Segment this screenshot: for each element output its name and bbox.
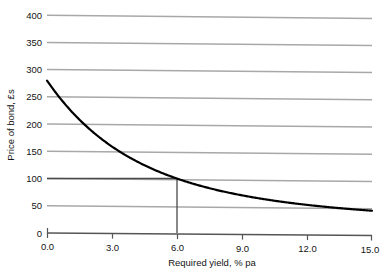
y-tick-label-250: 250 — [26, 91, 42, 102]
x-tick-label-15: 15.0 — [361, 244, 380, 255]
y-tick-label-400: 400 — [26, 10, 42, 21]
x-tick-label-0: 0.0 — [41, 241, 54, 252]
chart-background — [0, 0, 385, 272]
y-axis-title: Price of bond, £s — [5, 89, 16, 161]
y-tick-label-100: 100 — [26, 173, 42, 184]
y-tick-label-300: 300 — [26, 64, 42, 75]
x-tick-label-3: 3.0 — [106, 242, 119, 253]
x-tick-label-12: 12.0 — [298, 243, 317, 254]
y-tick-label-200: 200 — [26, 119, 42, 130]
x-tick-label-9: 9.0 — [236, 243, 249, 254]
x-axis-title: Required yield, % pa — [168, 257, 256, 268]
y-tick-label-0: 0 — [37, 228, 42, 239]
y-tick-label-350: 350 — [26, 37, 42, 48]
chart-canvas: 400 350 300 250 200 150 100 50 0 0.0 3.0… — [0, 0, 385, 272]
x-tick-label-6: 6.0 — [171, 242, 184, 253]
bond-price-yield-chart: 400 350 300 250 200 150 100 50 0 0.0 3.0… — [0, 0, 385, 272]
y-tick-label-150: 150 — [26, 146, 42, 157]
y-tick-label-50: 50 — [31, 200, 42, 211]
